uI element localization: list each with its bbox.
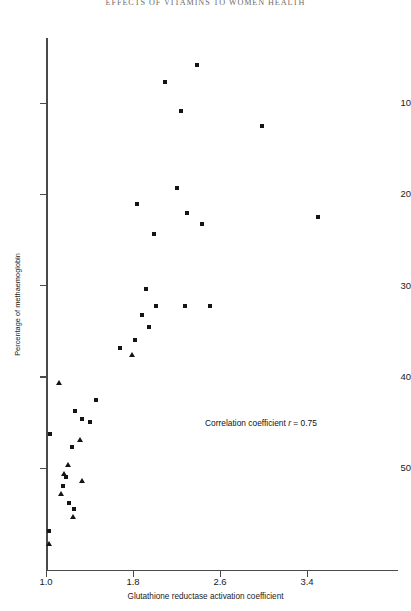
annotation-value: = 0.75 — [291, 418, 317, 428]
data-point-square — [118, 346, 122, 350]
x-tick-label: 3.4 — [287, 576, 327, 587]
data-point-triangle — [58, 491, 64, 496]
data-point-square — [144, 287, 148, 291]
y-axis-line — [46, 38, 48, 571]
scatter-plot-figure: EFFECTS OF VITAMINS TO WOMEN HEALTH 5040… — [0, 0, 411, 611]
data-point-square — [200, 222, 204, 226]
data-point-square — [195, 63, 199, 67]
x-axis-title: Glutathione reductase activation coeffic… — [0, 592, 411, 601]
x-axis-line — [46, 570, 398, 571]
y-tick-label: 50 — [377, 462, 411, 473]
data-point-square — [154, 304, 158, 308]
data-point-square — [183, 304, 187, 308]
annotation-prefix: Correlation coefficient — [205, 418, 288, 428]
data-point-square — [260, 124, 264, 128]
data-point-square — [147, 325, 151, 329]
y-tick-mark — [40, 194, 47, 195]
data-point-triangle — [61, 471, 67, 476]
y-tick-label: 10 — [377, 97, 411, 108]
x-tick-label: 2.6 — [200, 576, 240, 587]
data-point-square — [208, 304, 212, 308]
data-point-square — [70, 445, 74, 449]
data-point-triangle — [70, 514, 76, 519]
data-point-square — [61, 484, 65, 488]
data-point-square — [47, 529, 51, 533]
data-point-square — [163, 80, 167, 84]
x-tick-label: 1.8 — [113, 576, 153, 587]
y-tick-mark — [40, 285, 47, 286]
data-point-square — [88, 420, 92, 424]
data-point-square — [48, 432, 52, 436]
x-tick-label: 1.0 — [26, 576, 66, 587]
data-point-square — [72, 507, 76, 511]
data-point-triangle — [77, 437, 83, 442]
data-point-square — [152, 232, 156, 236]
data-point-square — [185, 211, 189, 215]
data-point-square — [316, 215, 320, 219]
page-running-header: EFFECTS OF VITAMINS TO WOMEN HEALTH — [0, 0, 411, 7]
data-point-triangle — [79, 478, 85, 483]
correlation-annotation: Correlation coefficient r = 0.75 — [205, 418, 317, 428]
data-point-square — [94, 398, 98, 402]
y-tick-mark — [40, 468, 47, 469]
data-point-triangle — [65, 462, 71, 467]
data-point-square — [175, 186, 179, 190]
y-tick-label: 20 — [377, 188, 411, 199]
data-point-triangle — [129, 352, 135, 357]
data-point-square — [179, 109, 183, 113]
data-point-square — [133, 338, 137, 342]
data-point-square — [135, 202, 139, 206]
y-tick-label: 40 — [377, 371, 411, 382]
data-point-triangle — [56, 380, 62, 385]
data-point-square — [67, 501, 71, 505]
y-tick-mark — [40, 376, 47, 377]
data-point-square — [73, 409, 77, 413]
y-tick-mark — [40, 103, 47, 104]
data-point-triangle — [46, 541, 52, 546]
y-tick-label: 30 — [377, 280, 411, 291]
data-point-square — [80, 417, 84, 421]
y-axis-title: Percentage of methaemoglobin — [13, 210, 22, 400]
data-point-square — [140, 313, 144, 317]
